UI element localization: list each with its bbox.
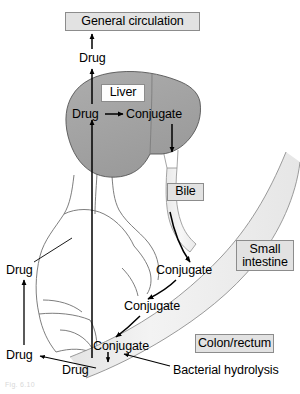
label-box-bile: Bile [167,183,204,201]
label-box-liver: Liver [101,84,145,102]
figure-caption: Fig. 6.10 [5,381,35,388]
label-drug-absorbed: Drug [6,264,33,277]
bile-duct [163,150,196,252]
label-conjugate-small-intestine-1: Conjugate [156,264,212,277]
leader-drug-left [34,238,72,262]
label-conjugate-liver: Conjugate [126,108,182,121]
label-drug-systemic: Drug [79,52,106,65]
label-drug-liver: Drug [72,108,99,121]
label-bacterial-hydrolysis: Bacterial hydrolysis [173,364,279,377]
arrow-conjugate-1-to-2 [148,280,176,299]
label-drug-colon: Drug [62,364,89,377]
label-conjugate-small-intestine-2: Conjugate [124,300,180,313]
label-drug-colon-absorbed: Drug [6,349,33,362]
label-box-small-intestine: Small intestine [236,240,294,271]
label-box-colon-rectum: Colon/rectum [195,334,274,353]
label-box-general-circulation: General circulation [65,12,200,31]
arrow-bacterial-hydrolysis-pointer [124,354,170,366]
label-conjugate-colon: Conjugate [93,340,149,353]
enterohepatic-circulation-figure: General circulation Liver Bile Small int… [0,0,300,394]
